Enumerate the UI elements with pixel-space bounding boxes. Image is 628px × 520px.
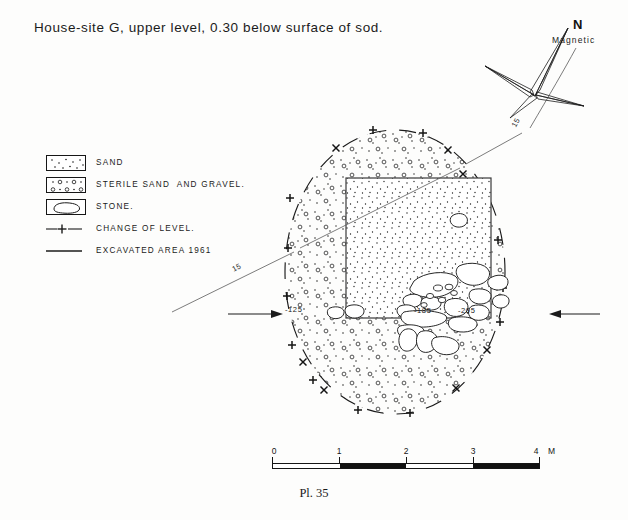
- scale-label-4: 4: [534, 446, 539, 456]
- scale-segment-filled-2: [473, 464, 540, 468]
- scale-tick-0: [272, 457, 273, 464]
- datum-left-label: -125: [285, 305, 302, 314]
- plate-caption: Pl. 35: [0, 486, 628, 501]
- scale-tick-1: [339, 457, 340, 464]
- scale-tick-3: [473, 457, 474, 464]
- scale-label-3: 3: [471, 446, 476, 456]
- elevation-label-b: -205: [458, 306, 475, 315]
- scale-label-2: 2: [404, 446, 409, 456]
- site-plan-map: [0, 0, 628, 520]
- elevation-label-a: -185: [414, 306, 431, 315]
- scale-label-0: 0: [272, 446, 277, 456]
- scale-segment-filled-1: [340, 464, 407, 468]
- scale-tick-4: [539, 457, 540, 464]
- scale-tick-2: [406, 457, 407, 464]
- datum-arrow-right: [549, 310, 600, 318]
- scale-unit-label: M: [548, 446, 555, 456]
- datum-arrow-left: [228, 310, 283, 318]
- plan-drawing-page: House-site G, upper level, 0.30 below su…: [0, 0, 628, 520]
- scale-label-1: 1: [337, 446, 342, 456]
